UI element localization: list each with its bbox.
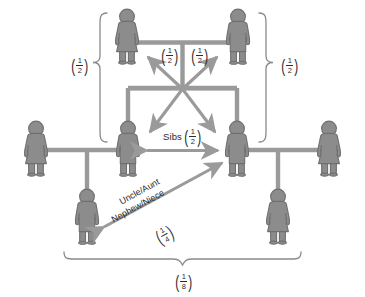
paren-close: ) [175,46,179,65]
paren-open: ( [191,46,195,65]
kinship-label-parent-left: ( 1 2 ) [160,46,180,65]
paren-close: ) [205,46,209,65]
paren-open: ( [281,56,285,75]
denominator: 2 [198,57,202,65]
denominator: 2 [168,57,172,65]
paren-close: ) [85,56,89,75]
fraction-one-half-sibs: ( 1 2 ) [183,127,203,146]
paren-open: ( [175,272,179,291]
numerator: 1 [182,273,186,281]
sibs-text: Sibs [163,132,182,142]
denominator: 2 [78,67,82,75]
fraction-one-eighth: ( 1 8 ) [174,272,194,291]
paren-close: ) [189,272,193,291]
numerator: 1 [168,47,172,55]
numerator: 1 [191,128,195,136]
pedigree-diagram [0,0,365,297]
numerator: 1 [288,57,292,65]
brace-label-bottom: ( 1 8 ) [174,272,194,291]
fraction-one-half-right: ( 1 2 ) [190,46,210,65]
kinship-label-parent-right: ( 1 2 ) [190,46,210,65]
brace-label-right: ( 1 2 ) [280,56,300,75]
fraction-one-half-left: ( 1 2 ) [160,46,180,65]
numerator: 1 [198,47,202,55]
fraction-one-half-brace-left: ( 1 2 ) [70,56,90,75]
denominator: 2 [191,138,195,146]
denominator: 8 [182,283,186,291]
paren-open: ( [161,46,165,65]
paren-close: ) [295,56,299,75]
brace-label-left: ( 1 2 ) [70,56,90,75]
denominator: 2 [288,67,292,75]
paren-open: ( [71,56,75,75]
paren-open: ( [184,127,188,146]
fraction-one-half-brace-right: ( 1 2 ) [280,56,300,75]
numerator: 1 [78,57,82,65]
sibs-label: Sibs ( 1 2 ) [163,127,203,146]
paren-close: ) [197,127,201,146]
